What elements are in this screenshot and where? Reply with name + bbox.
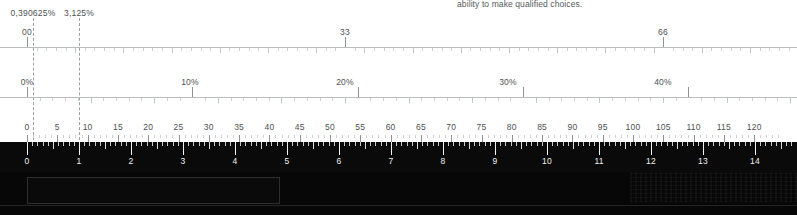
ruler-tick (263, 135, 264, 138)
ruler-tick (506, 135, 507, 138)
ruler-tick (472, 98, 473, 103)
ruler-tick (474, 142, 475, 146)
ruler-tick (27, 87, 28, 97)
ruler-tick (599, 98, 600, 103)
ruler-tick (342, 135, 343, 138)
ruler-tick (318, 135, 319, 138)
ruler-tick (776, 142, 777, 146)
numeric-ruler[interactable]: 0510152025303540455055606570758085909510… (0, 116, 797, 142)
ruler-tick (203, 135, 204, 138)
ruler-tick (523, 87, 524, 97)
ruler-tick (790, 98, 791, 103)
ruler-tick (524, 135, 525, 138)
screenshot-root: ability to make qualified choices. 00336… (0, 0, 797, 215)
ruler-tick (639, 135, 640, 138)
ruler-label: 35 (234, 122, 244, 132)
ruler-tick (485, 142, 486, 146)
ruler-tick (215, 135, 216, 138)
ruler-tick (599, 142, 600, 155)
ruler-tick (463, 135, 464, 138)
ruler-tick (748, 135, 749, 138)
ruler-tick (100, 142, 101, 146)
ruler-tick (615, 142, 616, 146)
ruler-tick (676, 98, 677, 101)
ruler-tick (417, 142, 418, 149)
ruler-tick (727, 98, 728, 103)
ruler-tick (243, 98, 244, 101)
ruler-tick (433, 142, 434, 146)
ruler-tick (261, 142, 262, 149)
ruler-tick (591, 135, 592, 138)
ruler-label: 0 (25, 156, 30, 166)
ruler-tick (766, 135, 767, 138)
ruler-tick (714, 98, 715, 101)
ruler-label: 30 (204, 122, 214, 132)
ruler-tick (172, 135, 173, 138)
ruler-tick (141, 142, 142, 146)
ruler-label: 5 (55, 122, 60, 132)
ruler-tick (65, 98, 66, 101)
ruler-label: 45 (295, 122, 305, 132)
ruler-tick (221, 135, 222, 138)
ruler-tick (469, 142, 470, 149)
ruler-label: 25 (174, 122, 184, 132)
ruler-tick (257, 135, 258, 138)
ruler-label: 13 (698, 156, 708, 166)
ruler-tick (105, 142, 106, 149)
ruler-tick (378, 135, 379, 138)
ruler-tick (443, 142, 444, 155)
ruler-tick (510, 98, 511, 101)
ruler-tick (459, 142, 460, 146)
ruler-tick (511, 142, 512, 146)
ruler-tick (739, 98, 740, 101)
ruler-tick (103, 98, 104, 101)
ruler-tick (115, 142, 116, 146)
ruler-tick (225, 142, 226, 146)
ruler-tick (765, 98, 766, 101)
ruler-tick (282, 142, 283, 146)
ruler-tick (40, 98, 41, 101)
ruler-tick (126, 142, 127, 146)
ruler-tick (192, 87, 193, 97)
ruler-tick (354, 135, 355, 138)
ruler-tick (479, 142, 480, 146)
ruler-tick (94, 135, 95, 138)
ruler-tick (724, 135, 725, 142)
ruler-tick (620, 142, 621, 146)
ruler-tick (251, 142, 252, 146)
ruler-tick (700, 135, 701, 138)
text-input[interactable] (27, 177, 280, 204)
ruler-tick (587, 98, 588, 101)
ruler-label: 14 (750, 156, 760, 166)
guide-label: 3,125% (64, 8, 94, 18)
dark-ruler[interactable]: 01234567891011121314 (0, 142, 797, 172)
ruler-tick (500, 142, 501, 146)
ruler-tick (288, 135, 289, 138)
ruler-tick (427, 142, 428, 146)
ruler-tick (63, 142, 64, 146)
ruler-label: 10 (542, 156, 552, 166)
ruler-tick (457, 135, 458, 138)
ruler-tick (173, 142, 174, 146)
ruler-tick (672, 142, 673, 146)
ruler-tick (657, 135, 658, 138)
percent-ruler[interactable]: 0%10%20%30%40% (0, 76, 797, 116)
ruler-tick (750, 142, 751, 146)
ruler-tick (162, 142, 163, 146)
ruler-tick (771, 142, 772, 146)
ruler-tick (485, 98, 486, 101)
ruler-tick (204, 142, 205, 146)
ruler-tick (597, 135, 598, 138)
ruler-tick (345, 98, 346, 103)
ruler-tick (490, 142, 491, 146)
ruler-tick (51, 135, 52, 138)
ruler-tick (235, 142, 236, 155)
ruler-tick (447, 98, 448, 101)
ruler-tick (48, 142, 49, 146)
ruler-label: 85 (537, 122, 547, 132)
ruler-tick (736, 135, 737, 138)
ruler-tick (693, 142, 694, 146)
ruler-tick (269, 135, 270, 142)
ruler-tick (294, 135, 295, 138)
ruler-label: 10 (83, 122, 93, 132)
